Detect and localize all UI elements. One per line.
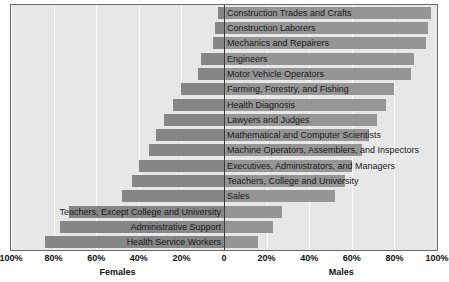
bar-category-label: Farming, Forestry, and Fishing bbox=[227, 82, 349, 96]
axis-tick-label: 80% bbox=[45, 252, 63, 264]
bar-category-label: Mathematical and Computer Scientists bbox=[227, 128, 381, 142]
axis-tick-label: 60% bbox=[343, 252, 361, 264]
axis-title-females: Females bbox=[99, 266, 135, 278]
axis-titles: Females Males bbox=[0, 266, 448, 280]
bar-category-label: Executives, Administrators, and Managers bbox=[227, 159, 395, 173]
bar-category-label: Health Service Workers bbox=[127, 235, 221, 249]
axis-title-males: Males bbox=[329, 266, 354, 278]
gridline bbox=[437, 5, 438, 250]
zero-axis-line bbox=[224, 5, 225, 250]
bar-category-label: Machine Operators, Assemblers, and Inspe… bbox=[227, 143, 419, 157]
bar-category-label: Sales bbox=[227, 189, 250, 203]
axis-tick-label: 20% bbox=[258, 252, 276, 264]
bar-category-label: Teachers, College and University bbox=[227, 174, 359, 188]
bar-category-label: Mechanics and Repairers bbox=[227, 36, 329, 50]
bar-category-label: Construction Trades and Crafts bbox=[227, 6, 352, 20]
bar-female bbox=[215, 22, 224, 34]
bar-female bbox=[198, 68, 224, 80]
bar-female bbox=[164, 114, 224, 126]
bar-female bbox=[139, 160, 224, 172]
axis-tick-label: 60% bbox=[87, 252, 105, 264]
axis-tick-label: 80% bbox=[385, 252, 403, 264]
bar-category-label: Teachers, Except College and University bbox=[59, 205, 221, 219]
bar-female bbox=[156, 129, 224, 141]
bar-female bbox=[213, 37, 224, 49]
bar-male bbox=[224, 236, 258, 248]
x-axis-ticks: 100%80%60%40%20%020%40%60%80%100% bbox=[0, 252, 448, 266]
axis-tick-label: 100% bbox=[0, 252, 23, 264]
bar-male bbox=[224, 221, 273, 233]
bar-category-label: Lawyers and Judges bbox=[227, 113, 310, 127]
bar-male bbox=[224, 206, 282, 218]
bar-female bbox=[181, 83, 224, 95]
axis-tick-label: 40% bbox=[130, 252, 148, 264]
axis-tick-label: 20% bbox=[172, 252, 190, 264]
bar-female bbox=[149, 144, 224, 156]
bar-category-label: Construction Laborers bbox=[227, 21, 316, 35]
axis-tick-label: 40% bbox=[300, 252, 318, 264]
bar-female bbox=[201, 53, 224, 65]
bar-category-label: Engineers bbox=[227, 52, 268, 66]
bar-female bbox=[173, 99, 224, 111]
axis-tick-label: 0 bbox=[221, 252, 226, 264]
bar-category-label: Motor Vehicle Operators bbox=[227, 67, 324, 81]
plot-area: Construction Trades and CraftsConstructi… bbox=[10, 4, 438, 251]
bar-female bbox=[122, 190, 224, 202]
bar-category-label: Administrative Support bbox=[130, 220, 221, 234]
bar-category-label: Health Diagnosis bbox=[227, 98, 295, 112]
bar-female bbox=[132, 175, 224, 187]
axis-tick-label: 100% bbox=[425, 252, 448, 264]
